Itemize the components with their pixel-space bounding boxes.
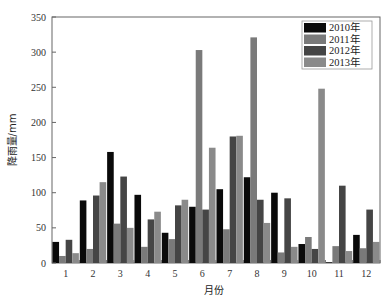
y-tick-label: 100 [31,187,46,198]
legend-swatch [304,58,326,68]
bar [162,233,169,263]
bar [373,242,380,263]
bar [52,242,59,263]
bar [250,37,257,263]
legend-swatch [304,23,326,33]
x-tick-label: 5 [173,268,178,279]
bar [66,240,73,263]
y-tick-label: 150 [31,152,46,163]
bar [168,239,175,263]
x-axis-title: 月份 [204,285,224,296]
x-tick-label: 8 [255,268,260,279]
y-tick-label: 350 [31,12,46,23]
bar [59,256,66,263]
x-tick-label: 7 [227,268,232,279]
legend-label: 2012年 [329,44,360,56]
x-tick-label: 4 [145,268,150,279]
bar [298,244,305,263]
x-tick-label: 1 [63,268,68,279]
bar [127,228,134,263]
legend-swatch [304,46,326,56]
bar [326,262,333,263]
bar [141,247,148,263]
bar [332,246,339,263]
bar [216,189,223,263]
bar [271,193,278,263]
bar [93,196,100,263]
x-tick-label: 10 [307,268,317,279]
x-tick-label: 11 [334,268,344,279]
bar [182,200,189,263]
bar [189,207,196,263]
y-tick-label: 50 [36,222,46,233]
bar [154,212,161,263]
legend: 2010年2011年2012年2013年 [302,21,372,69]
x-tick-label: 6 [200,268,205,279]
bar [196,50,203,263]
bar [230,136,237,263]
bar [148,219,155,263]
x-tick-label: 3 [118,268,123,279]
bar [360,248,367,263]
bar [257,200,264,263]
y-axis-title: 降雨量/mm [6,114,18,167]
bar [312,249,319,263]
bar [291,247,298,263]
x-tick-label: 12 [361,268,371,279]
bar [318,89,325,263]
y-tick-label: 200 [31,117,46,128]
y-tick-label: 300 [31,47,46,58]
bar [278,252,285,263]
bar [339,186,346,263]
bar [175,205,182,263]
x-tick-label: 9 [282,268,287,279]
bar [244,177,251,263]
bar [80,200,87,263]
y-tick-label: 0 [41,258,46,269]
bar [134,195,141,263]
x-tick-label: 2 [91,268,96,279]
bar [264,223,271,263]
bar [236,136,243,263]
legend-swatch [304,35,326,45]
bar [223,229,230,263]
legend-label: 2011年 [329,33,360,45]
legend-label: 2010年 [329,21,360,33]
bar [72,253,79,263]
bar [305,237,312,263]
y-tick-label: 250 [31,82,46,93]
bar [202,210,209,263]
bar [100,182,107,263]
bars [52,37,379,263]
bar [366,210,373,263]
bar [107,152,114,263]
bar [284,198,291,263]
bar [86,249,93,263]
bar [346,251,353,263]
legend-label: 2013年 [329,56,360,68]
bar [209,148,216,263]
bar [114,224,121,263]
bar [120,177,127,263]
bar [353,235,360,263]
rainfall-bar-chart: 050100150200250300350 123456789101112 降雨… [0,0,391,307]
